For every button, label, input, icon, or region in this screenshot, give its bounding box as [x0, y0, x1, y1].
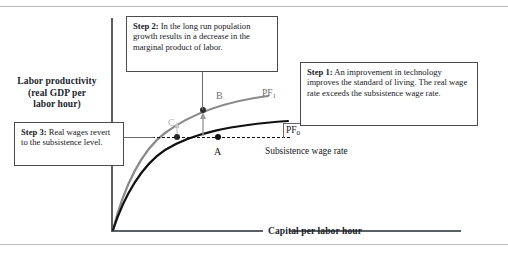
connector-step2-to-point-b	[202, 72, 203, 110]
callout-step-3-label: Step 3:	[21, 127, 47, 137]
connector-step1-horizontal	[283, 123, 301, 124]
callout-step-1: Step 1: An improvement in technology imp…	[300, 62, 478, 126]
connector-step3-to-axis	[124, 137, 154, 138]
x-axis-title: Capital per labor hour	[268, 226, 362, 238]
y-axis-title-line-3: labor hour)	[8, 99, 106, 111]
curve-label-pf1-subscript: 1	[273, 92, 277, 100]
callout-step-3: Step 3: Real wages revert to the subsist…	[14, 122, 124, 166]
curve-pf1	[113, 96, 268, 230]
y-axis-title-line-2: (real GDP per	[8, 88, 106, 100]
figure-bottom-border	[0, 244, 508, 245]
callout-step-1-label: Step 1:	[307, 67, 333, 77]
curve-label-pf0-base: PF	[286, 125, 297, 135]
y-axis-title-line-1: Labor productivity	[8, 76, 106, 88]
curve-label-pf1: PF1	[262, 88, 276, 100]
point-B-marker	[200, 107, 206, 113]
y-axis-title: Labor productivity (real GDP per labor h…	[8, 76, 106, 111]
point-label-a: A	[214, 146, 221, 157]
x-axis-left-segment	[111, 230, 263, 232]
curve-label-pf1-base: PF	[262, 88, 273, 98]
connector-step1-vertical	[283, 123, 284, 138]
arrow-A-to-B-head	[200, 112, 206, 119]
point-label-b: B	[216, 90, 223, 101]
curve-label-pf0-subscript: 0	[297, 129, 301, 137]
arrow-C-up-head	[175, 122, 180, 128]
curve-label-pf0: PF0	[286, 125, 300, 137]
subsistence-wage-rate-label: Subsistence wage rate	[265, 146, 348, 156]
figure-canvas: Labor productivity (real GDP per labor h…	[0, 0, 508, 254]
callout-step-2: Step 2: In the long run population growt…	[126, 16, 278, 72]
point-label-c: C	[168, 117, 175, 128]
figure-top-border	[0, 6, 508, 7]
callout-step-2-label: Step 2:	[133, 21, 159, 31]
